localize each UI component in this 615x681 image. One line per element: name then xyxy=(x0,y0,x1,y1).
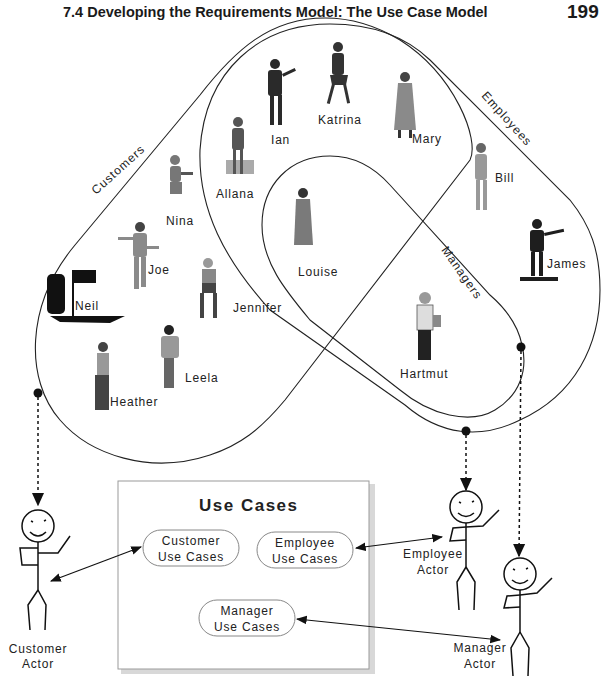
employee-actor-label-line1: Employee xyxy=(403,547,463,561)
employee-use-cases-oval[interactable]: Employee Use Cases xyxy=(257,532,353,568)
customer-use-cases-line2: Use Cases xyxy=(158,550,224,564)
person-label-leela: Leela xyxy=(185,371,218,385)
person-figure-leela xyxy=(161,325,179,388)
managers-to-actor-dependency xyxy=(519,351,521,556)
person-figure-heather xyxy=(95,342,109,410)
person-label-bill: Bill xyxy=(495,171,514,185)
person-figure-james xyxy=(520,219,564,281)
employees-connector-dot xyxy=(462,427,471,436)
managers-set-label: Managers xyxy=(439,244,486,302)
person-label-ian: Ian xyxy=(271,133,290,147)
employees-set-label: Employees xyxy=(479,89,535,149)
person-label-louise: Louise xyxy=(298,265,338,279)
person-figure-neil xyxy=(47,270,125,323)
person-label-allana: Allana xyxy=(216,187,254,201)
customer-use-cases-line1: Customer xyxy=(162,534,220,548)
person-figure-nina xyxy=(170,155,193,194)
person-label-heather: Heather xyxy=(110,395,158,409)
manager-actor-label-line1: Manager xyxy=(454,641,507,655)
customer-use-cases-oval[interactable]: Customer Use Cases xyxy=(143,530,239,566)
person-figure-joe xyxy=(118,222,159,289)
use-cases-title: Use Cases xyxy=(199,496,299,515)
managers-connector-dot xyxy=(517,343,526,352)
person-label-hartmut: Hartmut xyxy=(400,367,448,381)
employee-use-cases-line1: Employee xyxy=(275,536,335,550)
person-label-nina: Nina xyxy=(166,214,194,228)
person-figure-ian xyxy=(268,59,296,125)
manager-use-cases-line2: Use Cases xyxy=(214,620,280,634)
person-figure-hartmut xyxy=(417,292,441,360)
manager-actor-label-line2: Actor xyxy=(464,657,496,671)
person-label-neil: Neil xyxy=(75,299,99,313)
person-figure-bill xyxy=(475,143,487,210)
person-label-katrina: Katrina xyxy=(318,113,362,127)
person-figure-louise xyxy=(294,188,313,245)
person-figure-mary xyxy=(394,72,416,138)
person-label-jennifer: Jennifer xyxy=(233,301,282,315)
person-figure-jennifer xyxy=(200,258,217,318)
manager-use-cases-line1: Manager xyxy=(221,604,274,618)
person-figure-katrina xyxy=(327,42,350,104)
customer-actor-label-line2: Actor xyxy=(22,657,54,671)
manager-actor-stick-figure xyxy=(504,558,552,676)
employee-use-cases-line2: Use Cases xyxy=(272,552,338,566)
employee-actor-label-line2: Actor xyxy=(417,563,449,577)
person-figure-allana xyxy=(226,117,254,174)
use-case-diagram: Customers Employees Managers Ian Katrina… xyxy=(0,0,615,681)
person-label-mary: Mary xyxy=(412,132,442,146)
person-label-joe: Joe xyxy=(148,263,170,277)
customers-set-label: Customers xyxy=(89,142,148,197)
manager-use-cases-oval[interactable]: Manager Use Cases xyxy=(199,600,295,636)
customers-connector-dot xyxy=(34,389,43,398)
customer-actor-label-line1: Customer xyxy=(9,642,67,656)
person-label-james: James xyxy=(547,257,586,271)
customer-actor-stick-figure xyxy=(20,510,70,630)
